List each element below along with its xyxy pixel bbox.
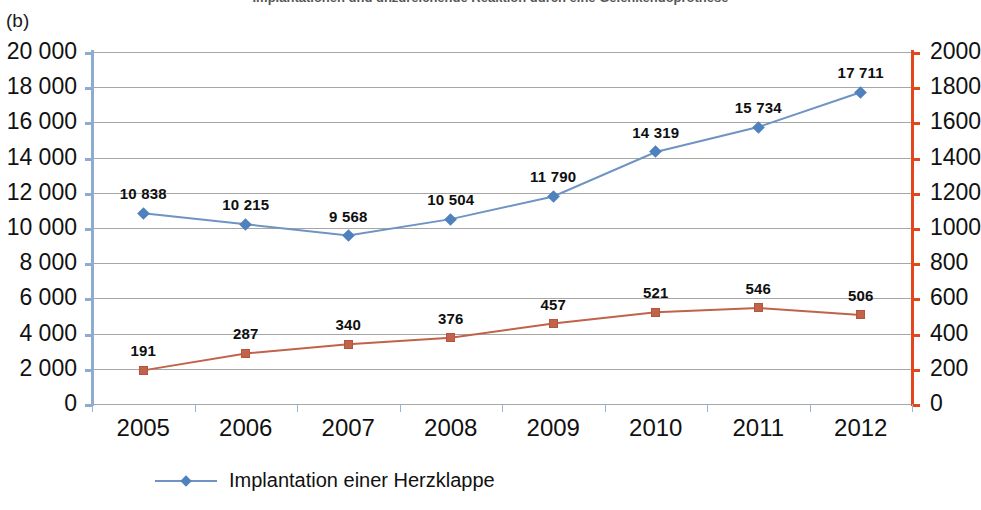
square-marker-icon [446,333,455,342]
left-axis-tick-label: 16 000 [7,110,77,133]
data-point-label: 10 504 [381,191,521,208]
left-axis-tick [85,52,92,55]
x-axis-tick [92,404,93,412]
data-point-label: 17 711 [791,64,931,81]
left-axis-tick [85,122,92,125]
legend-swatch-herzklappe [155,474,217,488]
left-axis-tick-label: 0 [64,392,77,415]
x-axis-tick [195,404,196,412]
right-axis-tick [912,263,920,266]
diamond-marker-icon [180,475,191,486]
chart-legend: Implantation einer Herzklappe [155,469,495,492]
left-axis-tick [85,158,92,161]
legend-label-herzklappe: Implantation einer Herzklappe [229,469,495,492]
square-marker-icon [549,319,558,328]
data-point-label: 191 [73,342,213,359]
left-axis-tick-label: 20 000 [7,40,77,63]
square-marker-icon [139,366,148,375]
left-axis-tick [85,334,92,337]
x-axis-tick [502,404,503,412]
gridline [92,122,912,123]
right-axis-tick-label: 600 [930,286,968,309]
left-axis-tick [85,369,92,372]
left-axis-tick [85,298,92,301]
left-axis-tick [85,404,92,407]
x-axis-tick [912,404,913,412]
right-axis-tick-label: 1800 [930,75,981,98]
right-axis-tick-label: 1400 [930,146,981,169]
gridline [92,228,912,229]
line-chart: 002 0002004 0004006 0006008 00080010 000… [0,0,981,510]
left-axis-tick [85,263,92,266]
data-point-label: 15 734 [688,99,828,116]
right-axis-tick [912,228,920,231]
x-axis-tick [400,404,401,412]
data-point-label: 506 [791,287,931,304]
right-axis-tick-label: 400 [930,322,968,345]
square-marker-icon [754,303,763,312]
left-axis-tick-label: 10 000 [7,216,77,239]
square-marker-icon [651,308,660,317]
left-axis-tick-label: 8 000 [19,251,77,274]
left-axis-tick-label: 14 000 [7,146,77,169]
left-axis-tick-label: 6 000 [19,286,77,309]
left-axis-tick-label: 12 000 [7,181,77,204]
left-axis-tick [85,228,92,231]
left-axis-tick-label: 4 000 [19,322,77,345]
right-axis-tick [912,52,920,55]
square-marker-icon [856,310,865,319]
left-axis-tick [85,87,92,90]
x-axis-tick [707,404,708,412]
x-axis-tick [810,404,811,412]
right-axis-tick-label: 2000 [930,40,981,63]
gridline [92,263,912,264]
gridline [92,158,912,159]
gridline [92,369,912,370]
data-point-label: 14 319 [586,124,726,141]
right-axis-tick-label: 0 [930,392,943,415]
right-axis-tick-label: 1200 [930,181,981,204]
data-point-label: 11 790 [483,168,623,185]
square-marker-icon [344,340,353,349]
right-axis-tick [912,87,920,90]
right-axis-tick-label: 1600 [930,110,981,133]
data-point-label: 9 568 [278,208,418,225]
x-axis-category-label: 2012 [801,414,921,442]
right-axis-tick-label: 200 [930,357,968,380]
left-axis-tick-label: 18 000 [7,75,77,98]
right-axis-tick-label: 1000 [930,216,981,239]
right-axis-tick [912,404,920,407]
right-axis-tick [912,193,920,196]
square-marker-icon [241,349,250,358]
gridline [92,87,912,88]
x-axis-tick [605,404,606,412]
left-axis-tick-label: 2 000 [19,357,77,380]
gridline [92,52,912,53]
right-axis-tick [912,122,920,125]
right-axis-tick-label: 800 [930,251,968,274]
x-axis-tick [297,404,298,412]
right-axis-tick [912,334,920,337]
right-axis-tick [912,369,920,372]
right-axis-tick [912,158,920,161]
